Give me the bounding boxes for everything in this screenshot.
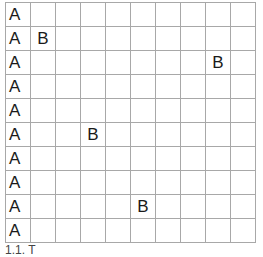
grid-cell (131, 75, 156, 99)
grid-cell (106, 99, 131, 123)
grid-cell (106, 51, 131, 75)
grid-row: AB (6, 27, 256, 51)
grid-row: AB (6, 195, 256, 219)
grid-row: A (6, 171, 256, 195)
grid-cell (206, 123, 231, 147)
grid-cell (56, 147, 81, 171)
grid-cell (56, 123, 81, 147)
grid-cell (206, 3, 231, 27)
grid-cell (106, 75, 131, 99)
grid-cell (156, 219, 181, 243)
grid-cell (81, 219, 106, 243)
grid-cell (31, 99, 56, 123)
grid-cell: A (6, 171, 31, 195)
grid-cell (81, 195, 106, 219)
grid-cell (206, 99, 231, 123)
grid-cell (181, 195, 206, 219)
grid-row: A (6, 75, 256, 99)
grid-cell: B (206, 51, 231, 75)
grid-cell: A (6, 27, 31, 51)
grid-cell (56, 219, 81, 243)
grid-cell (31, 75, 56, 99)
grid-cell (56, 27, 81, 51)
grid-cell (231, 171, 256, 195)
grid-cell (206, 147, 231, 171)
grid-cell (56, 99, 81, 123)
grid-cell (156, 147, 181, 171)
grid-cell (131, 171, 156, 195)
grid-cell (131, 99, 156, 123)
grid-cell (81, 99, 106, 123)
grid-cell (206, 27, 231, 51)
grid-cell (106, 171, 131, 195)
grid-cell: B (81, 123, 106, 147)
letter-grid: AABABAAABAAABA (5, 2, 256, 243)
grid-cell (31, 171, 56, 195)
grid-cell (56, 3, 81, 27)
grid-cell (31, 219, 56, 243)
grid-row: AB (6, 51, 256, 75)
grid-cell (81, 51, 106, 75)
grid-cell (31, 123, 56, 147)
grid-cell (131, 27, 156, 51)
grid-cell (181, 123, 206, 147)
grid-cell (181, 27, 206, 51)
grid-cell (81, 75, 106, 99)
grid-cell (131, 147, 156, 171)
grid-cell: A (6, 99, 31, 123)
grid-cell (156, 51, 181, 75)
grid-row: AB (6, 123, 256, 147)
grid-cell (106, 195, 131, 219)
grid-cell (156, 75, 181, 99)
grid-cell (31, 195, 56, 219)
grid-body: AABABAAABAAABA (6, 3, 256, 243)
grid-row: A (6, 219, 256, 243)
grid-cell (31, 3, 56, 27)
grid-cell (156, 99, 181, 123)
grid-cell (81, 171, 106, 195)
grid-cell: A (6, 195, 31, 219)
grid-cell (56, 75, 81, 99)
grid-cell (106, 219, 131, 243)
grid-cell: A (6, 75, 31, 99)
grid-row: A (6, 99, 256, 123)
grid-cell: B (131, 195, 156, 219)
grid-cell (106, 27, 131, 51)
grid-cell: A (6, 147, 31, 171)
grid-cell (131, 3, 156, 27)
grid-cell (131, 219, 156, 243)
grid-cell: A (6, 123, 31, 147)
grid-cell (31, 147, 56, 171)
grid-cell (181, 3, 206, 27)
grid-cell (56, 51, 81, 75)
grid-cell (231, 123, 256, 147)
grid-cell (231, 219, 256, 243)
grid-cell (181, 51, 206, 75)
grid-cell (231, 147, 256, 171)
grid-cell (156, 27, 181, 51)
grid-cell (181, 147, 206, 171)
grid-cell (81, 147, 106, 171)
grid-cell (181, 99, 206, 123)
grid-cell (231, 195, 256, 219)
grid-cell (231, 3, 256, 27)
grid-cell (31, 51, 56, 75)
grid-caption: 1.1. T (5, 243, 35, 257)
grid-cell (81, 3, 106, 27)
grid-cell (106, 123, 131, 147)
grid-cell (231, 99, 256, 123)
grid-cell (156, 171, 181, 195)
grid-cell: A (6, 219, 31, 243)
grid-cell (231, 75, 256, 99)
grid-cell (181, 171, 206, 195)
grid-cell (206, 219, 231, 243)
grid-cell (206, 75, 231, 99)
grid-cell (181, 219, 206, 243)
grid-cell: A (6, 3, 31, 27)
grid-row: A (6, 147, 256, 171)
grid-cell (106, 3, 131, 27)
grid-cell (156, 123, 181, 147)
grid-cell (56, 171, 81, 195)
grid-cell (81, 27, 106, 51)
grid-cell (131, 51, 156, 75)
